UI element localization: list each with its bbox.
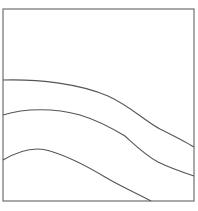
lower-curve [3,149,151,201]
upper-curve [3,80,194,147]
diagram-frame [3,9,194,201]
contour-diagram [0,0,198,211]
middle-curve [3,110,194,176]
